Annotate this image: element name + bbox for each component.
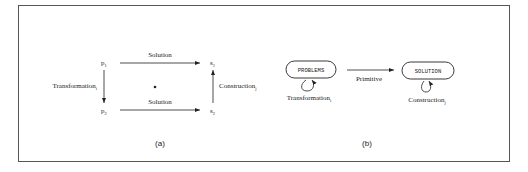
- label-transformation: Transformationi: [52, 82, 97, 91]
- label-solution-top: Solution: [148, 51, 172, 59]
- loop-transformation: [302, 80, 314, 91]
- node-problems-label: PROBLEMS: [298, 67, 325, 74]
- label-loop-construction: Constructionj: [408, 96, 445, 105]
- panel-b: PROBLEMS SOLUTION Primitive Transformati…: [286, 61, 454, 148]
- node-s1: s1: [210, 59, 215, 68]
- label-construction: Constructionj: [219, 82, 256, 91]
- node-p2: p2: [101, 107, 107, 116]
- node-s2: s2: [210, 107, 215, 116]
- label-solution-bottom: Solution: [148, 98, 172, 106]
- caption-b: (b): [362, 139, 372, 148]
- label-loop-transformation: Transformationi: [287, 94, 332, 103]
- diagram-canvas: p1 p2 s1 s2 Solution Solution Transforma…: [0, 0, 528, 172]
- center-dot: [154, 86, 157, 89]
- panel-a: p1 p2 s1 s2 Solution Solution Transforma…: [52, 51, 256, 148]
- label-primitive: Primitive: [356, 75, 382, 83]
- caption-a: (a): [155, 139, 165, 148]
- loop-construction: [422, 81, 431, 92]
- node-solution-label: SOLUTION: [415, 68, 441, 75]
- node-p1: p1: [101, 59, 107, 68]
